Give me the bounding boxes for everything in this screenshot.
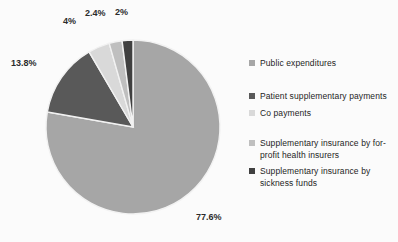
- legend-item-supplementary-insurance-for-profit[interactable]: Supplementary insurance by for-profit he…: [249, 137, 398, 161]
- legend-item-label: Public expenditures: [260, 57, 336, 69]
- legend-item-supplementary-insurance-sickness-funds[interactable]: Supplementary insurance by sickness fund…: [249, 165, 398, 189]
- data-label-co-payments: 4%: [63, 16, 76, 26]
- data-label-supplementary-insurance-for-profit: 2.4%: [85, 8, 106, 18]
- legend-item-label: Co payments: [260, 107, 311, 119]
- legend-item-co-payments[interactable]: Co payments: [249, 107, 398, 119]
- legend-swatch-icon: [249, 110, 255, 116]
- data-label-supplementary-insurance-sickness-funds: 2%: [115, 7, 128, 17]
- pie-plot-area: 77.6% 13.8% 4% 2.4% 2%: [0, 0, 250, 242]
- data-label-public-expenditures: 77.6%: [196, 212, 222, 222]
- pie-slices: [46, 40, 220, 214]
- legend-swatch-icon: [249, 60, 255, 66]
- legend-swatch-icon: [249, 140, 255, 146]
- legend-item-patient-supplementary-payments[interactable]: Patient supplementary payments: [249, 90, 398, 102]
- legend-swatch-icon: [249, 168, 255, 174]
- data-label-patient-supplementary-payments: 13.8%: [11, 58, 37, 68]
- chart-legend: Public expenditures Patient supplementar…: [249, 57, 398, 189]
- legend-swatch-icon: [249, 93, 255, 99]
- legend-item-public-expenditures[interactable]: Public expenditures: [249, 57, 398, 69]
- pie-chart-figure: 77.6% 13.8% 4% 2.4% 2% Public expenditur…: [0, 0, 398, 242]
- pie-svg: [0, 0, 250, 242]
- legend-item-label: Patient supplementary payments: [260, 90, 387, 102]
- legend-item-label: Supplementary insurance by sickness fund…: [260, 165, 398, 189]
- legend-item-label: Supplementary insurance by for-profit he…: [260, 137, 398, 161]
